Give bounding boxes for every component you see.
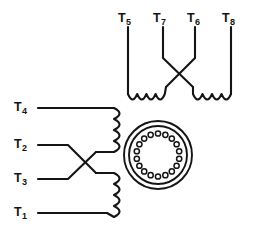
upper-right-coil [193, 87, 231, 100]
connector-pin [163, 132, 168, 137]
connector-pin [148, 132, 153, 137]
terminal-label-t5: T5 [118, 12, 131, 25]
schematic-canvas [0, 0, 254, 231]
terminal-label-t2-base: T [14, 137, 22, 151]
terminal-label-t6: T6 [187, 12, 200, 25]
terminal-label-t1: T1 [14, 206, 27, 219]
connector-pin [142, 169, 147, 174]
left-winding-group [38, 108, 120, 217]
left-lower-coil [96, 173, 120, 217]
terminal-label-t2-sub: 2 [22, 143, 27, 153]
connector-pin [148, 173, 153, 178]
terminal-label-t6-sub: 6 [195, 17, 200, 27]
terminal-label-t4-sub: 4 [22, 106, 27, 116]
connector-pin [142, 136, 147, 141]
terminal-label-t6-base: T [187, 11, 195, 25]
upper-left-coil [128, 87, 166, 100]
connector-pin [177, 149, 182, 154]
schematic-figure: T5 T7 T6 T8 T4 T2 T3 T1 [0, 0, 254, 231]
connector-pin [174, 142, 179, 147]
connector-pin-ring [134, 131, 182, 179]
connector-pin [177, 156, 182, 161]
terminal-label-t4: T4 [14, 101, 27, 114]
terminal-label-t3: T3 [14, 172, 27, 185]
connector-inner-ring [129, 126, 187, 184]
connector-pin [134, 149, 139, 154]
terminal-label-t8-sub: 8 [230, 17, 235, 27]
lead-wire-t6 [166, 27, 195, 87]
connector-pin [134, 156, 139, 161]
terminal-label-t2: T2 [14, 138, 27, 151]
terminal-label-t7: T7 [153, 12, 166, 25]
connector-pin [137, 163, 142, 168]
top-winding-group [128, 27, 231, 100]
terminal-label-t8-base: T [222, 11, 230, 25]
lead-wire-t7 [163, 27, 193, 87]
terminal-label-t1-base: T [14, 205, 22, 219]
left-upper-coil [96, 108, 120, 152]
connector-pin [174, 163, 179, 168]
terminal-label-t5-base: T [118, 11, 126, 25]
terminal-label-t7-base: T [153, 11, 161, 25]
terminal-label-t3-sub: 3 [22, 177, 27, 187]
terminal-label-t8: T8 [222, 12, 235, 25]
terminal-label-t1-sub: 1 [22, 211, 27, 221]
terminal-label-t4-base: T [14, 100, 22, 114]
terminal-label-t3-base: T [14, 171, 22, 185]
connector-pin [169, 169, 174, 174]
connector-pin [155, 174, 160, 179]
terminal-label-t5-sub: 5 [126, 17, 131, 27]
connector-pin [137, 142, 142, 147]
terminal-label-t7-sub: 7 [161, 17, 166, 27]
connector-pin [169, 136, 174, 141]
connector-pin [163, 173, 168, 178]
connector-pin [155, 131, 160, 136]
circular-connector [124, 121, 192, 189]
